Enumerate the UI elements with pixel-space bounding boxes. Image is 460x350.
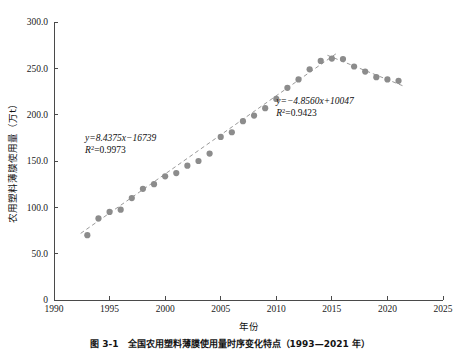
data-point [240, 118, 246, 124]
data-point-group [84, 56, 401, 239]
data-point [218, 134, 224, 140]
rising-trend-equation: y=8.4375x−16739 [84, 133, 156, 143]
data-point [129, 195, 135, 201]
data-point [95, 215, 101, 221]
y-tick-label: 50.0 [31, 249, 48, 259]
rising-trend-equation-r2: R2=0.9973 [84, 143, 126, 155]
y-axis-title: 农用塑料薄膜使用量（万t） [7, 99, 18, 223]
x-tick-label: 2025 [434, 304, 453, 314]
data-point [340, 56, 346, 62]
data-point [118, 207, 124, 213]
data-point [284, 85, 290, 91]
data-point [229, 129, 235, 135]
y-tick-label: 300.0 [27, 17, 49, 27]
data-point [295, 76, 301, 82]
y-axis-ticks: 050.0100.0150.0200.0250.0300.0 [27, 17, 58, 305]
x-axis-ticks: 19901995200020052010201520202025 [45, 296, 453, 314]
trendline-group [81, 54, 406, 234]
x-tick-label: 1995 [100, 304, 119, 314]
data-point [307, 66, 313, 72]
declining-trend-equation: y=−4.8560x+10047 [275, 96, 355, 106]
y-tick-label: 100.0 [27, 203, 49, 213]
data-point [184, 163, 190, 169]
data-point [329, 56, 335, 62]
data-point [262, 105, 268, 111]
data-point [195, 158, 201, 164]
data-point [373, 74, 379, 80]
x-tick-label: 2005 [211, 304, 230, 314]
data-point [384, 76, 390, 82]
y-tick-label: 150.0 [27, 156, 49, 166]
figure-container: 050.0100.0150.0200.0250.0300.0 199019952… [0, 0, 460, 350]
data-point [140, 186, 146, 192]
x-tick-label: 2015 [322, 304, 341, 314]
x-tick-label: 1990 [45, 304, 64, 314]
data-point [207, 150, 213, 156]
chart-canvas: 050.0100.0150.0200.0250.0300.0 199019952… [0, 0, 460, 350]
data-point [106, 209, 112, 215]
data-point [251, 112, 257, 118]
figure-caption: 图 3-1 全国农用塑料薄膜使用量时序变化特点（1993—2021 年） [0, 338, 460, 350]
x-axis-title: 年份 [239, 321, 259, 332]
x-tick-label: 2020 [378, 304, 397, 314]
data-point [151, 181, 157, 187]
declining-trend-equation-r2: R2=0.9423 [275, 106, 317, 118]
annotation-group: y=8.4375x−16739R2=0.9973y=−4.8560x+10047… [84, 96, 355, 155]
y-tick-label: 200.0 [27, 110, 49, 120]
data-point [162, 173, 168, 179]
data-point [395, 78, 401, 84]
x-tick-label: 2000 [156, 304, 175, 314]
data-point [362, 68, 368, 74]
data-point [84, 232, 90, 238]
data-point [173, 170, 179, 176]
y-tick-label: 250.0 [27, 64, 49, 74]
data-point [318, 58, 324, 64]
data-point [351, 63, 357, 69]
x-tick-label: 2010 [267, 304, 286, 314]
